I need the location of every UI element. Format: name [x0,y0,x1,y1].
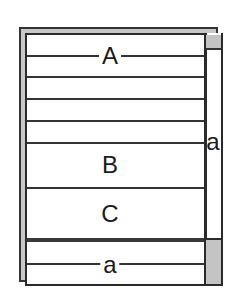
scrollbar-corner-box [204,238,223,286]
row-label-b: B [99,153,121,177]
row-divider [27,120,204,122]
row-label-c: C [98,202,121,226]
horizontal-scrollbar-bottom-border [27,284,204,286]
row-divider [27,142,204,144]
row-divider [27,98,204,100]
vertical-scrollbar-label: a [206,130,219,154]
row-divider [27,76,204,78]
vertical-scrollbar-thumb[interactable] [206,35,221,50]
header-label-a: A [99,44,121,68]
row-divider [27,187,204,189]
horizontal-scrollbar-label: a [100,253,119,277]
